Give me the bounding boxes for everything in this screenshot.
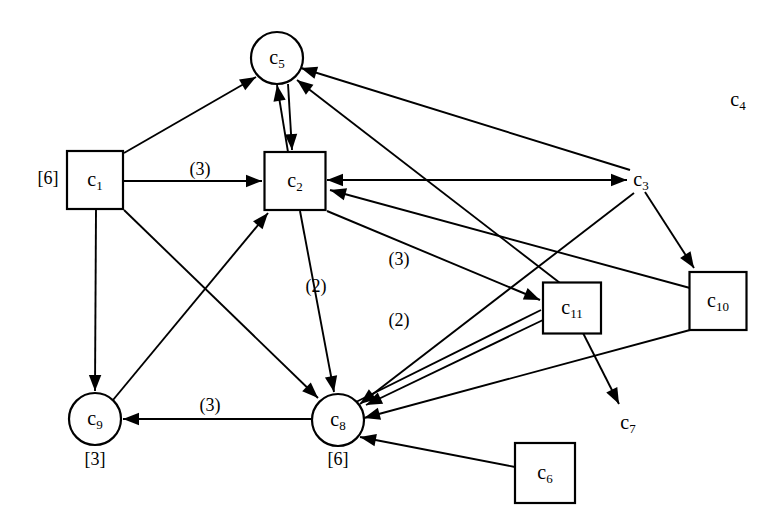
graph-node-c1[interactable]: c1 bbox=[67, 151, 123, 209]
edge-arrowhead bbox=[301, 67, 318, 79]
edge-line[interactable] bbox=[356, 310, 541, 402]
graph-edge[interactable] bbox=[330, 190, 690, 288]
node-label: c7 bbox=[620, 411, 636, 436]
node-label-base: c bbox=[620, 411, 629, 433]
edge-cost-label: (2) bbox=[306, 276, 327, 297]
edge-line[interactable] bbox=[301, 68, 630, 170]
edge-line[interactable] bbox=[327, 211, 540, 300]
graph-edge[interactable] bbox=[95, 210, 96, 391]
edge-arrowhead bbox=[364, 408, 381, 420]
node-label-base: c bbox=[269, 46, 278, 68]
graph-diagram: c1[6]c2c3c4c5c6c7c8[6]c9[3]c10c11 (3)(2)… bbox=[0, 0, 783, 532]
edge-cost-label: (3) bbox=[190, 159, 211, 180]
graph-edge[interactable] bbox=[327, 211, 540, 300]
graph-node-c5[interactable]: c5 bbox=[251, 32, 303, 84]
edge-arrowhead bbox=[611, 174, 627, 186]
graph-edge[interactable] bbox=[124, 210, 318, 398]
graph-node-c6[interactable]: c6 bbox=[515, 443, 575, 503]
node-label-base: c bbox=[561, 296, 570, 318]
graph-node-c11[interactable]: c11 bbox=[543, 283, 601, 334]
node-label: c3 bbox=[633, 168, 648, 193]
node-supply-label: [6] bbox=[38, 168, 59, 188]
edge-arrowhead bbox=[239, 77, 256, 90]
edge-arrowhead bbox=[330, 188, 347, 200]
node-label-subscript: 1 bbox=[96, 178, 103, 193]
node-label-base: c bbox=[633, 168, 642, 190]
node-label-subscript: 11 bbox=[570, 306, 583, 321]
node-label-subscript: 8 bbox=[339, 418, 346, 433]
edge-line[interactable] bbox=[366, 320, 543, 405]
edge-arrowhead bbox=[680, 251, 694, 268]
edge-line[interactable] bbox=[360, 437, 515, 467]
edge-line[interactable] bbox=[124, 210, 318, 398]
graph-node-c7[interactable]: c7 bbox=[620, 411, 636, 436]
edge-cost-label: (3) bbox=[200, 395, 221, 416]
node-label: c4 bbox=[730, 88, 746, 113]
graph-node-c4[interactable]: c4 bbox=[730, 88, 746, 113]
graph-edge[interactable] bbox=[124, 77, 256, 153]
edge-line[interactable] bbox=[124, 77, 256, 153]
graph-edge[interactable] bbox=[356, 310, 541, 402]
node-supply-label: [6] bbox=[328, 449, 349, 469]
graph-node-c10[interactable]: c10 bbox=[690, 272, 747, 330]
edge-arrowhead bbox=[606, 387, 619, 404]
edge-arrowhead bbox=[523, 288, 540, 300]
node-label-base: c bbox=[730, 88, 739, 110]
node-label-base: c bbox=[330, 408, 339, 430]
graph-edge[interactable] bbox=[301, 68, 630, 170]
graph-node-c9[interactable]: c9 bbox=[69, 393, 121, 445]
edge-line[interactable] bbox=[300, 211, 334, 392]
node-label-subscript: 3 bbox=[642, 178, 649, 193]
edge-arrowhead bbox=[360, 434, 377, 446]
node-label-base: c bbox=[287, 169, 296, 191]
node-label-base: c bbox=[707, 289, 716, 311]
graph-edge[interactable] bbox=[113, 213, 268, 400]
edge-arrowhead bbox=[325, 375, 337, 392]
node-label-base: c bbox=[537, 461, 546, 483]
graph-node-c3[interactable]: c3 bbox=[633, 168, 648, 193]
node-label-base: c bbox=[87, 168, 96, 190]
node-label-subscript: 7 bbox=[629, 421, 636, 436]
node-label-subscript: 4 bbox=[739, 98, 746, 113]
edge-arrowhead bbox=[297, 80, 313, 95]
edge-arrowhead bbox=[123, 413, 139, 425]
node-label-base: c bbox=[87, 407, 96, 429]
edge-arrowhead bbox=[89, 375, 101, 391]
graph-canvas: c1[6]c2c3c4c5c6c7c8[6]c9[3]c10c11 (3)(2)… bbox=[0, 0, 783, 532]
graph-edge[interactable] bbox=[300, 211, 334, 392]
graph-edge[interactable] bbox=[360, 437, 515, 467]
graph-node-c8[interactable]: c8 bbox=[312, 394, 364, 446]
edge-cost-label: (3) bbox=[389, 249, 410, 270]
edge-line[interactable] bbox=[95, 210, 96, 391]
edge-arrowhead bbox=[273, 85, 285, 102]
node-label-subscript: 2 bbox=[296, 179, 303, 194]
node-label-subscript: 5 bbox=[278, 56, 285, 71]
node-label-subscript: 6 bbox=[546, 471, 553, 486]
edge-arrowhead bbox=[253, 213, 268, 229]
edge-line[interactable] bbox=[113, 213, 268, 400]
node-label-subscript: 10 bbox=[716, 299, 729, 314]
edge-line[interactable] bbox=[330, 190, 690, 288]
graph-edge[interactable] bbox=[366, 320, 543, 405]
graph-node-c2[interactable]: c2 bbox=[265, 152, 326, 210]
edge-cost-label: (2) bbox=[389, 310, 410, 331]
edge-arrowhead bbox=[246, 175, 262, 187]
node-label-subscript: 9 bbox=[96, 417, 103, 432]
node-supply-label: [3] bbox=[85, 449, 106, 469]
edge-arrowhead-reverse bbox=[327, 174, 343, 186]
